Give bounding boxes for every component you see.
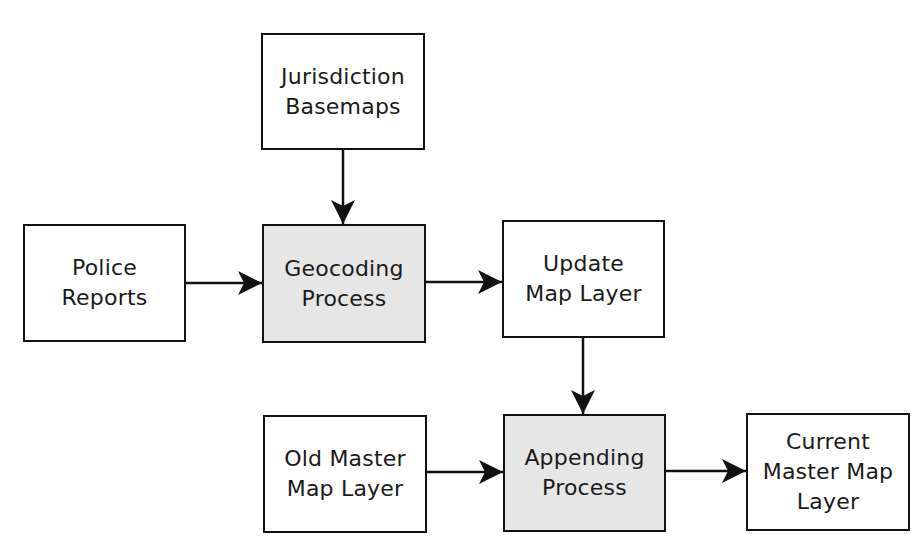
node-jurisdiction-basemaps: Jurisdiction Basemaps (261, 33, 425, 150)
node-label: Current Master Map Layer (763, 427, 894, 517)
flowchart-diagram: Jurisdiction Basemaps Police Reports Geo… (0, 0, 923, 558)
node-current-master-map-layer: Current Master Map Layer (746, 413, 910, 531)
node-label: Police Reports (62, 253, 148, 313)
node-old-master-map-layer: Old Master Map Layer (263, 415, 427, 533)
node-label: Old Master Map Layer (284, 444, 406, 504)
node-police-reports: Police Reports (23, 224, 186, 342)
node-label: Geocoding Process (284, 254, 403, 314)
node-geocoding-process: Geocoding Process (262, 224, 426, 343)
node-appending-process: Appending Process (503, 414, 666, 532)
node-label: Appending Process (524, 443, 644, 503)
node-update-map-layer: Update Map Layer (502, 220, 665, 338)
node-label: Update Map Layer (525, 249, 642, 309)
node-label: Jurisdiction Basemaps (281, 62, 405, 122)
